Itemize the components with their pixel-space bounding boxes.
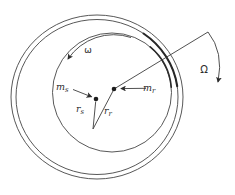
mass-r-dot [112, 87, 117, 92]
diagram-background [0, 0, 235, 195]
rotor-whirl-diagram: ω Ω ms mr rs rr [0, 0, 235, 195]
spin-label: ω [84, 45, 92, 55]
mass-s-dot [94, 97, 99, 102]
whirl-label: Ω [200, 64, 208, 75]
